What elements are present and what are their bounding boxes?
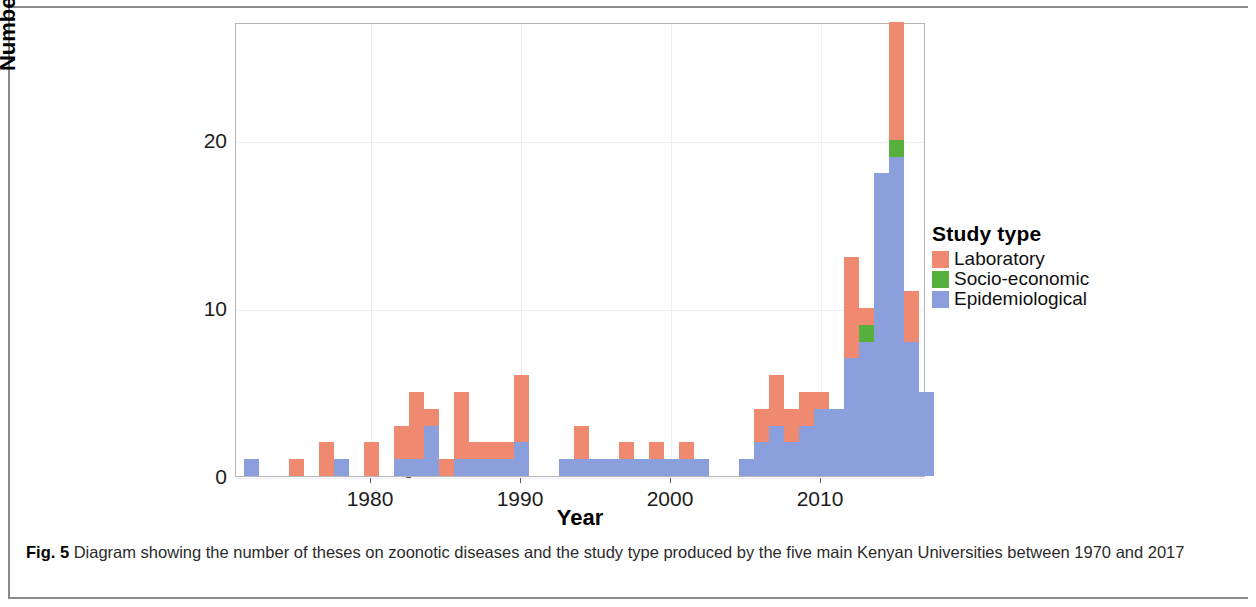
- bar-1975: [289, 459, 304, 476]
- bar-segment-epi: [859, 342, 874, 477]
- bar-segment-epi: [409, 459, 424, 476]
- y-axis-tick-labels: 01020: [175, 23, 227, 477]
- figure-container: Number of theses produced 01020 19801990…: [0, 0, 1256, 607]
- legend-item-label: Laboratory: [954, 248, 1045, 270]
- y-tick-label-10: 10: [204, 297, 227, 321]
- bar-1984: [424, 409, 439, 476]
- bar-segment-epi: [844, 358, 859, 476]
- bar-segment-lab: [889, 22, 904, 140]
- bar-segment-lab: [454, 392, 469, 459]
- legend-item-epi: Epidemiological: [932, 289, 1232, 309]
- bar-2009: [799, 392, 814, 476]
- bar-2015: [889, 22, 904, 476]
- bar-1977: [319, 442, 334, 476]
- bar-2012: [844, 257, 859, 476]
- bar-segment-lab: [784, 409, 799, 443]
- bar-segment-lab: [469, 442, 484, 459]
- bar-segment-lab: [574, 426, 589, 460]
- bar-segment-lab: [799, 392, 814, 426]
- bar-segment-epi: [769, 426, 784, 476]
- bar-segment-epi: [469, 459, 484, 476]
- x-axis-title: Year: [235, 505, 925, 531]
- bar-segment-lab: [649, 442, 664, 459]
- bar-2000: [664, 459, 679, 476]
- bar-segment-lab: [619, 442, 634, 459]
- bar-1997: [619, 442, 634, 476]
- bar-segment-lab: [769, 375, 784, 425]
- bar-1985: [439, 459, 454, 476]
- bar-segment-epi: [649, 459, 664, 476]
- bar-segment-lab: [499, 442, 514, 459]
- bar-segment-epi: [799, 426, 814, 476]
- y-axis-title: Number of theses produced: [0, 0, 21, 90]
- bar-segment-lab: [904, 291, 919, 341]
- figure-label: Fig. 5: [26, 543, 69, 561]
- bar-2013: [859, 308, 874, 476]
- bar-segment-lab: [394, 426, 409, 460]
- bar-2002: [694, 459, 709, 476]
- bar-segment-epi: [499, 459, 514, 476]
- bar-2014: [874, 173, 889, 476]
- bar-segment-lab: [289, 459, 304, 476]
- bar-segment-lab: [859, 308, 874, 325]
- x-tick-mark: [820, 478, 821, 483]
- bar-1999: [649, 442, 664, 476]
- x-tick-mark: [520, 478, 521, 483]
- bar-2006: [754, 409, 769, 476]
- bar-segment-lab: [319, 442, 334, 476]
- bar-1989: [499, 442, 514, 476]
- bar-2016: [904, 291, 919, 476]
- bar-segment-epi: [829, 409, 844, 476]
- bar-2011: [829, 409, 844, 476]
- bar-1988: [484, 442, 499, 476]
- bar-1993: [559, 459, 574, 476]
- bar-2007: [769, 375, 784, 476]
- bar-segment-lab: [679, 442, 694, 459]
- bar-segment-epi: [889, 157, 904, 476]
- bar-segment-epi: [604, 459, 619, 476]
- bar-segment-epi: [514, 442, 529, 476]
- figure-caption: Fig. 5 Diagram showing the number of the…: [26, 540, 1222, 565]
- bar-2017: [919, 392, 934, 476]
- y-tick-label-0: 0: [215, 465, 227, 489]
- bar-2005: [739, 459, 754, 476]
- bar-segment-epi: [874, 173, 889, 476]
- bar-1972: [244, 459, 259, 476]
- bar-segment-epi: [454, 459, 469, 476]
- bar-segment-epi: [679, 459, 694, 476]
- bar-1982: [394, 426, 409, 476]
- bar-segment-lab: [424, 409, 439, 426]
- bar-1986: [454, 392, 469, 476]
- x-axis-tick-labels: 1980199020002010: [235, 478, 925, 508]
- bar-1980: [364, 442, 379, 476]
- legend-swatch-icon-epi: [932, 291, 949, 308]
- bar-1995: [589, 459, 604, 476]
- bar-segment-epi: [784, 442, 799, 476]
- legend-item-label: Socio-economic: [954, 268, 1089, 290]
- bar-segment-epi: [919, 392, 934, 476]
- y-tick-label-20: 20: [204, 129, 227, 153]
- bar-1996: [604, 459, 619, 476]
- bar-segment-soc: [889, 140, 904, 157]
- bar-segment-epi: [754, 442, 769, 476]
- bar-2010: [814, 392, 829, 476]
- bar-segment-epi: [694, 459, 709, 476]
- legend: Study type LaboratorySocio-economicEpide…: [932, 222, 1232, 309]
- bar-segment-epi: [394, 459, 409, 476]
- bar-segment-epi: [334, 459, 349, 476]
- bar-segment-epi: [574, 459, 589, 476]
- bar-segment-lab: [844, 257, 859, 358]
- x-tick-mark: [670, 478, 671, 483]
- legend-title: Study type: [932, 222, 1232, 246]
- bar-1978: [334, 459, 349, 476]
- bar-segment-epi: [634, 459, 649, 476]
- bar-segment-epi: [424, 426, 439, 476]
- bars-layer: [236, 24, 924, 476]
- bar-segment-epi: [244, 459, 259, 476]
- legend-item-lab: Laboratory: [932, 249, 1232, 269]
- bar-segment-lab: [409, 392, 424, 459]
- bar-1998: [634, 459, 649, 476]
- bar-1987: [469, 442, 484, 476]
- bar-2008: [784, 409, 799, 476]
- x-tick-mark: [370, 478, 371, 483]
